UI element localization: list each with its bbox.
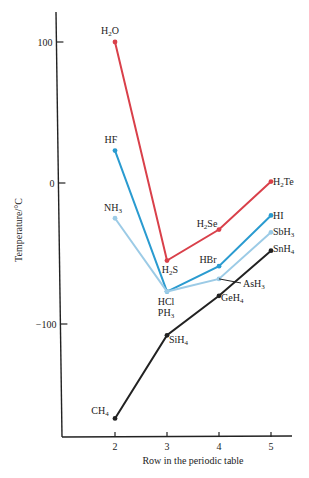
y-axis-title: Temperature/°C xyxy=(13,198,24,262)
data-point xyxy=(113,416,118,421)
x-tick-label: 3 xyxy=(165,441,170,452)
point-label-h2se: H2Se xyxy=(197,218,218,231)
data-point xyxy=(165,289,170,294)
point-label-hf: HF xyxy=(105,134,118,145)
data-point xyxy=(113,148,118,153)
x-tick-label: 5 xyxy=(269,441,274,452)
point-label-geh4: GeH4 xyxy=(221,292,244,305)
y-tick-label: 100 xyxy=(37,37,52,48)
y-axis-line xyxy=(56,12,62,437)
series-line xyxy=(115,251,271,419)
series-group-16-hydrides xyxy=(113,40,274,263)
axes: 1000−1002345Row in the periodic tableTem… xyxy=(13,12,292,466)
point-label-ash3: AsH3 xyxy=(243,278,265,291)
data-point xyxy=(217,264,222,269)
point-label-nh3: NH3 xyxy=(104,202,122,215)
point-label-hbr: HBr xyxy=(199,254,217,265)
x-axis-line xyxy=(62,436,292,437)
point-label-h2s: H2S xyxy=(162,264,178,277)
series-line xyxy=(115,42,271,261)
point-label-ch4: CH4 xyxy=(91,405,109,418)
point-label-sbh3: SbH3 xyxy=(273,226,295,239)
boiling-point-chart: 1000−1002345Row in the periodic tableTem… xyxy=(0,0,309,478)
series-group-17-hydrides xyxy=(113,148,274,294)
data-point xyxy=(113,216,118,221)
x-axis-title: Row in the periodic table xyxy=(142,455,244,466)
x-tick-label: 4 xyxy=(217,441,222,452)
data-point xyxy=(113,40,118,45)
y-tick-label: −100 xyxy=(36,319,57,330)
point-label-h2te: H2Te xyxy=(273,176,294,189)
point-label-snh4: SnH4 xyxy=(273,243,295,256)
point-label-ph3: PH3 xyxy=(158,307,175,320)
series-layer xyxy=(113,40,274,421)
data-point xyxy=(165,258,170,263)
point-label-sih4: SiH4 xyxy=(169,334,189,347)
y-tick-label: 0 xyxy=(49,178,54,189)
x-tick-label: 2 xyxy=(113,441,118,452)
series-group-14-hydrides xyxy=(113,248,274,421)
point-label-h2o: H2O xyxy=(101,25,119,38)
point-label-hi: HI xyxy=(273,210,284,221)
plot-area: 1000−1002345Row in the periodic tableTem… xyxy=(0,0,309,478)
point-label-hcl: HCl xyxy=(158,296,175,307)
